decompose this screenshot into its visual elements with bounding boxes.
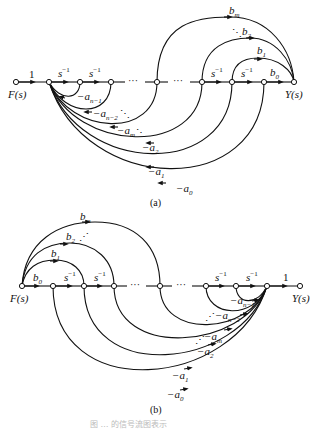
ellipsis-vertical: ⋱ <box>232 27 242 38</box>
ellipsis: ··· <box>173 75 183 86</box>
ellipsis-vertical: ⋰ <box>79 231 89 242</box>
gain-a1: −a1 <box>148 165 164 180</box>
integrator-label: s−1 <box>241 66 253 79</box>
integrator-label: s−1 <box>215 270 227 283</box>
gain-an-2: −an−2 <box>215 309 240 324</box>
input-gain: 1 <box>29 68 35 80</box>
diagram-a: F(s) Y(s) 1 s−1 s−1 s−1 s−1 ··· ··· bm ⋱… <box>7 4 303 209</box>
integrator-label: s−1 <box>58 66 70 79</box>
input-node <box>19 283 24 288</box>
output-node <box>297 283 302 288</box>
gain-a0: −a0 <box>176 182 193 197</box>
signal-flow-diagrams: F(s) Y(s) 1 s−1 s−1 s−1 s−1 ··· ··· bm ⋱… <box>0 0 316 430</box>
figure-caption: 图 … 的信号流图表示 <box>90 419 167 429</box>
input-node <box>13 79 18 84</box>
output-node <box>291 79 296 84</box>
feedforward-arcs-b <box>22 222 160 286</box>
integrator-label: s−1 <box>64 270 76 283</box>
input-label: F(s) <box>9 292 29 305</box>
gain-b0: b0 <box>33 271 43 286</box>
ellipsis-vertical: ⋰ <box>205 311 215 322</box>
gain-a1: −a1 <box>172 369 188 384</box>
ellipsis: ··· <box>176 279 186 290</box>
gain-an-1: −an−1 <box>230 294 255 309</box>
integrator-label: s−1 <box>94 270 106 283</box>
gain-am: −am <box>117 124 135 139</box>
output-gain: 1 <box>283 271 289 283</box>
gain-an-2: −an−2 <box>93 107 118 122</box>
ellipsis: ··· <box>128 75 138 86</box>
input-label: F(s) <box>7 88 27 101</box>
integrator-label: s−1 <box>89 66 101 79</box>
integrator-label: s−1 <box>211 66 223 79</box>
ellipsis: ··· <box>130 279 140 290</box>
ellipsis-vertical: ⋱ <box>136 127 146 138</box>
diagram-b: F(s) Y(s) 1 s−1 s−1 s−1 s−1 ··· ··· bm b… <box>9 210 310 416</box>
gain-b0: b0 <box>270 66 280 81</box>
gain-an-1: −an−1 <box>77 90 102 105</box>
caption-a: (a) <box>150 197 161 209</box>
gain-b1: b1 <box>257 44 266 59</box>
ellipsis-vertical: ⋱ <box>120 108 130 119</box>
output-label: Y(s) <box>285 88 303 101</box>
integrator-label: s−1 <box>246 270 258 283</box>
output-label: Y(s) <box>292 292 310 305</box>
caption-b: (b) <box>150 404 162 416</box>
